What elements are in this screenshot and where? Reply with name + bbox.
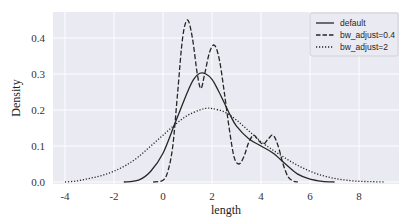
y-axis-label: Density	[9, 79, 23, 116]
y-tick-label: 0.1	[31, 140, 45, 152]
y-tick-label: 0.2	[31, 104, 45, 116]
y-tick-label: 0.4	[31, 32, 45, 44]
y-axis-ticks: 0.00.10.20.30.4	[31, 32, 45, 188]
x-tick-label: 4	[258, 190, 264, 202]
x-tick-label: 2	[209, 190, 215, 202]
x-axis-ticks: -4-202468	[60, 190, 362, 202]
legend-item-bw-0-4: bw_adjust=0.4	[340, 30, 395, 40]
x-tick-label: -4	[60, 190, 70, 202]
legend: default bw_adjust=0.4 bw_adjust=2	[310, 13, 398, 56]
x-tick-label: 8	[356, 190, 362, 202]
y-tick-label: 0.0	[31, 176, 45, 188]
x-tick-label: -2	[109, 190, 118, 202]
legend-item-default: default	[340, 18, 366, 28]
x-tick-label: 6	[307, 190, 313, 202]
legend-item-bw-2: bw_adjust=2	[340, 42, 388, 52]
y-tick-label: 0.3	[31, 68, 45, 80]
kde-chart: -4-202468 0.00.10.20.30.4 length Density…	[0, 0, 407, 223]
x-axis-label: length	[211, 203, 241, 217]
x-tick-label: 0	[160, 190, 166, 202]
